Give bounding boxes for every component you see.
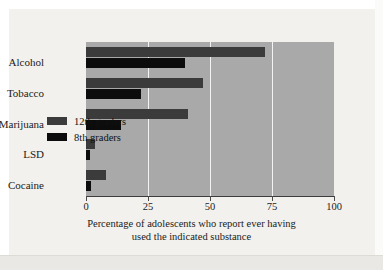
bar-cocaine-8th-graders [86,181,91,191]
chart-caption: Percentage of adolescents who report eve… [0,217,383,243]
bar-tobacco-12th-graders [86,78,203,88]
legend-label-8th-graders: 8th graders [74,132,121,143]
bar-lsd-8th-graders [86,150,90,160]
x-tick-label-25: 25 [143,201,154,212]
legend-item-12th-graders: 12th graders [47,113,126,129]
bar-alcohol-12th-graders [86,47,265,57]
x-tick-label-50: 50 [205,201,216,212]
figure-top-edge [0,0,383,9]
category-label-tobacco: Tobacco [0,87,44,99]
figure-bottom-edge [0,255,383,270]
chart-legend: 12th graders 8th graders [47,113,126,145]
category-label-cocaine: Cocaine [0,179,44,191]
caption-line-1: Percentage of adolescents who report eve… [0,217,383,230]
gridline-50 [210,42,211,196]
category-label-lsd: LSD [0,148,44,160]
gridline-75 [272,42,273,196]
x-tick-label-100: 100 [326,201,342,212]
legend-swatch-8th-graders [47,133,67,141]
bar-cocaine-12th-graders [86,170,106,180]
category-label-alcohol: Alcohol [0,56,44,68]
legend-label-12th-graders: 12th graders [74,116,126,127]
caption-line-2: used the indicated substance [0,230,383,243]
bar-tobacco-8th-graders [86,89,141,99]
x-tick-label-0: 0 [83,201,88,212]
category-label-marijuana: Marijuana [0,118,44,130]
x-tick-label-75: 75 [267,201,278,212]
bar-alcohol-8th-graders [86,58,185,68]
legend-swatch-12th-graders [47,117,67,125]
chart-figure: AlcoholTobaccoMarijuanaLSDCocaine0255075… [0,0,383,270]
legend-item-8th-graders: 8th graders [47,129,126,145]
